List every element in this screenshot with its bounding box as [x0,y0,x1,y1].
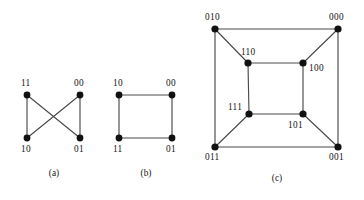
vertex-label: 10 [21,144,31,154]
graph-vertex [244,59,251,66]
vertex-label: 100 [309,63,324,73]
vertex-label: 01 [74,144,84,154]
panel-caption-panel-a: (a) [49,168,59,179]
panel-caption-panel-b: (b) [141,168,152,179]
vertex-label: 010 [205,12,220,22]
graph-vertex [116,135,123,142]
figure-container: 1100100110001101010000011001110100111101… [0,0,364,200]
graph-vertex [299,59,306,66]
vertices-layer [24,25,342,150]
graph-vertex [334,25,341,32]
graph-vertex [77,135,84,142]
vertex-label: 11 [21,78,31,88]
graph-figure-canvas: 1100100110001101010000011001110100111101… [0,0,364,200]
graph-vertex [245,110,252,117]
vertex-label: 110 [241,47,256,57]
graph-vertex [169,92,176,99]
graph-vertex [211,143,218,150]
vertex-label: 000 [329,12,344,22]
graph-edge [215,29,248,63]
vertex-label: 00 [74,78,84,88]
vertex-label: 101 [288,120,303,130]
graph-vertex [24,135,31,142]
graph-vertex [116,92,123,99]
vertex-label: 011 [205,152,220,162]
vertex-label: 10 [113,78,123,88]
vertex-labels-layer: 1100100110001101010000011001110100111101 [21,12,344,162]
graph-vertex [24,92,31,99]
graph-vertex [334,143,341,150]
vertex-label: 001 [329,152,344,162]
graph-edge [303,114,338,147]
graph-edge [248,63,249,114]
vertex-label: 01 [166,144,176,154]
graph-vertex [77,92,84,99]
graph-vertex [299,110,306,117]
vertex-label: 00 [166,78,176,88]
graph-vertex [169,135,176,142]
panel-captions-layer: (a)(b)(c) [49,168,282,184]
graph-edge [215,114,249,147]
panel-caption-panel-c: (c) [272,173,282,184]
vertex-label: 111 [228,102,242,112]
graph-vertex [211,25,218,32]
graph-edge [303,29,338,63]
vertex-label: 11 [113,144,123,154]
